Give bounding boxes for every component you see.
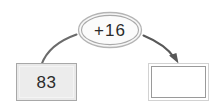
output-answer-box-inner[interactable]	[151, 66, 206, 98]
arrow-operation-to-output	[144, 36, 175, 59]
arrowhead-icon	[169, 53, 179, 64]
input-number-box: 83	[16, 63, 77, 101]
output-answer-box[interactable]	[148, 63, 209, 101]
operation-oval-inner	[82, 15, 139, 44]
input-number-value: 83	[37, 74, 57, 91]
diagram-canvas: +16 83	[0, 0, 216, 108]
arrow-input-to-operation	[42, 35, 77, 65]
input-number-box-inner: 83	[19, 66, 74, 98]
